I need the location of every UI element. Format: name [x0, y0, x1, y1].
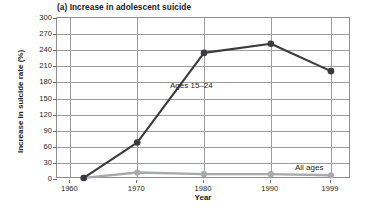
- data-point-marker: [134, 139, 141, 146]
- x-axis-tick-label: 1970: [128, 184, 145, 193]
- x-axis-tick-mark: [136, 180, 137, 183]
- data-point-marker: [268, 40, 275, 47]
- x-axis-tick-label: 1990: [261, 184, 278, 193]
- x-axis-tick-mark: [69, 180, 70, 183]
- series-annotation-all-ages: All ages: [295, 163, 323, 172]
- x-axis-tick-labels: 19601970198019901999: [56, 180, 350, 194]
- data-point-marker: [328, 68, 335, 75]
- y-axis-tick-label: 30: [18, 157, 52, 166]
- plot-area: Ages 15–24 All ages: [56, 17, 350, 178]
- y-axis-tick-label: 270: [18, 29, 52, 38]
- chart-title: (a) Increase in adolescent suicide: [57, 2, 191, 12]
- data-point-marker: [328, 172, 334, 178]
- y-axis-tick-label: 240: [18, 45, 52, 54]
- y-axis-tick-label: 60: [18, 141, 52, 150]
- x-axis-tick-label: 1960: [61, 184, 78, 193]
- y-axis-tick-label: 120: [18, 109, 52, 118]
- x-axis-tick-label: 1980: [195, 184, 212, 193]
- data-point-marker: [201, 171, 207, 177]
- data-point-marker: [268, 171, 274, 177]
- figure-increase-in-adolescent-suicide: (a) Increase in adolescent suicide Incre…: [0, 0, 371, 215]
- x-axis-tick-mark: [203, 180, 204, 183]
- x-axis-title: Year: [55, 193, 351, 202]
- y-axis-tick-label: 210: [18, 61, 52, 70]
- x-axis-tick-mark: [330, 180, 331, 183]
- series-line-ages-15-24: [84, 44, 331, 178]
- y-axis-tick-label: 180: [18, 77, 52, 86]
- y-axis-tick-label: 0: [18, 174, 52, 183]
- data-series-layer: [57, 18, 351, 179]
- data-point-marker: [201, 50, 208, 57]
- series-annotation-ages-15-24: Ages 15–24: [170, 81, 213, 90]
- y-axis-tick-label: 150: [18, 93, 52, 102]
- x-axis-tick-label: 1999: [322, 184, 339, 193]
- series-line-all-ages: [84, 173, 331, 178]
- y-axis-tick-label: 300: [18, 13, 52, 22]
- y-axis-tick-label: 90: [18, 125, 52, 134]
- data-point-marker: [134, 169, 140, 175]
- y-axis-tick-labels: 0306090120150180210240270300: [14, 17, 52, 178]
- x-axis-tick-mark: [270, 180, 271, 183]
